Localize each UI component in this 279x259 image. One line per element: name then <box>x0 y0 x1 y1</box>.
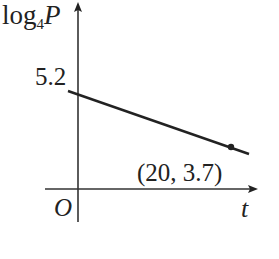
log-text: log <box>2 0 37 30</box>
log-base: 4 <box>37 16 45 32</box>
y-intercept-label: 5.2 <box>35 64 66 89</box>
point-label: (20, 3.7) <box>137 160 222 185</box>
y-axis-label: log4P <box>2 2 61 32</box>
trend-line <box>68 91 249 154</box>
x-axis-label: t <box>241 196 248 222</box>
variable-p: P <box>44 0 61 30</box>
graph: log4P 5.2 (20, 3.7) O t <box>0 0 279 259</box>
origin-label: O <box>54 195 72 220</box>
graph-canvas <box>0 0 279 259</box>
data-point <box>228 144 234 150</box>
